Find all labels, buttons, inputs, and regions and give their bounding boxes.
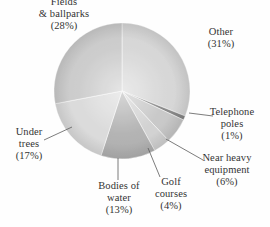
pie-label-near-heavy-equipment: Near heavy equipment (6%)	[186, 152, 268, 187]
pie-label-near-heavy-equipment-percent: (6%)	[186, 176, 268, 188]
pie-label-telephone-poles-percent: (1%)	[196, 130, 268, 142]
pie-label-telephone-poles-line2: poles	[196, 118, 268, 130]
pie-label-bodies-of-water-percent: (13%)	[86, 204, 152, 216]
pie-label-other-percent: (31%)	[186, 38, 256, 50]
pie-label-fields-ballparks-line2: & ballparks	[8, 8, 120, 20]
pie-label-golf-courses: Golf courses (4%)	[144, 176, 198, 211]
pie-label-bodies-of-water: Bodies of water (13%)	[86, 180, 152, 215]
pie-label-golf-courses-line1: Golf	[144, 176, 198, 188]
pie-label-under-trees-percent: (17%)	[2, 150, 56, 162]
pie-label-other-line1: Other	[186, 26, 256, 38]
pie-label-golf-courses-line2: courses	[144, 188, 198, 200]
pie-label-under-trees-line1: Under	[2, 126, 56, 138]
pie-label-under-trees: Under trees (17%)	[2, 126, 56, 161]
pie-label-near-heavy-equipment-line1: Near heavy	[186, 152, 268, 164]
pie-label-bodies-of-water-line1: Bodies of	[86, 180, 152, 192]
pie-label-fields-ballparks-line1: Fields	[8, 0, 120, 8]
pie-edge-shading	[54, 23, 190, 159]
leader-line-golf-courses	[148, 148, 160, 177]
pie-label-near-heavy-equipment-line2: equipment	[186, 164, 268, 176]
pie-label-fields-ballparks-percent: (28%)	[8, 20, 120, 32]
pie-chart-figure: Fields & ballparks (28%) Other (31%) Tel…	[0, 0, 270, 227]
pie-label-bodies-of-water-line2: water	[86, 192, 152, 204]
pie-label-golf-courses-percent: (4%)	[144, 200, 198, 212]
pie-label-fields-ballparks: Fields & ballparks (28%)	[8, 0, 120, 31]
pie-label-other: Other (31%)	[186, 26, 256, 50]
pie-label-telephone-poles-line1: Telephone	[196, 106, 268, 118]
pie-label-telephone-poles: Telephone poles (1%)	[196, 106, 268, 141]
pie-label-under-trees-line2: trees	[2, 138, 56, 150]
